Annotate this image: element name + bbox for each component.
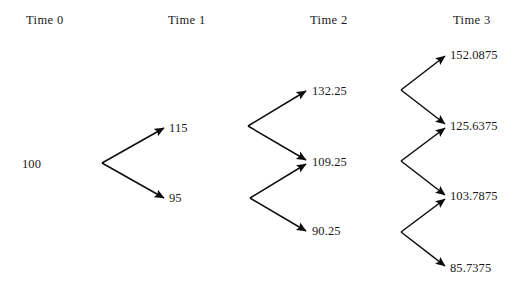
tree-edge-n2ud-to-n3c <box>401 161 445 195</box>
tree-edge-n0-to-n1u <box>102 128 164 163</box>
tree-edge-n1d-to-n2ud <box>250 164 306 198</box>
tree-edge-n2ud-to-n3b <box>401 128 445 161</box>
tree-edge-n1u-to-n2uu <box>248 91 306 126</box>
node-label-t3-b: 125.6375 <box>450 119 498 134</box>
tree-edge-n2dd-to-n3d <box>401 232 445 266</box>
time-header-0: Time 0 <box>26 13 64 28</box>
edge-group <box>102 56 445 266</box>
node-label-t3-a: 152.0875 <box>450 48 498 63</box>
node-label-t2-downdown: 90.25 <box>312 224 341 239</box>
node-label-t2-upup: 132.25 <box>312 84 347 99</box>
tree-edge-n2uu-to-n3a <box>401 56 445 90</box>
tree-edge-n1d-to-n2dd <box>250 198 306 231</box>
time-header-2: Time 2 <box>310 13 348 28</box>
node-label-t1-down: 95 <box>169 191 182 206</box>
tree-edges-layer <box>0 0 526 290</box>
tree-edge-n1u-to-n2ud <box>248 126 306 160</box>
time-header-3: Time 3 <box>453 13 491 28</box>
tree-edge-n2dd-to-n3c <box>401 199 445 232</box>
node-label-t3-c: 103.7875 <box>450 189 498 204</box>
tree-edge-n0-to-n1d <box>102 163 164 198</box>
binomial-tree-diagram: Time 0 Time 1 Time 2 Time 3 100 115 95 1… <box>0 0 526 290</box>
time-header-1: Time 1 <box>168 13 206 28</box>
tree-edge-n2uu-to-n3b <box>401 90 445 124</box>
node-label-t2-updown: 109.25 <box>312 155 347 170</box>
node-label-t3-d: 85.7375 <box>450 261 491 276</box>
node-label-t0-100: 100 <box>22 157 41 172</box>
node-label-t1-up: 115 <box>169 121 188 136</box>
